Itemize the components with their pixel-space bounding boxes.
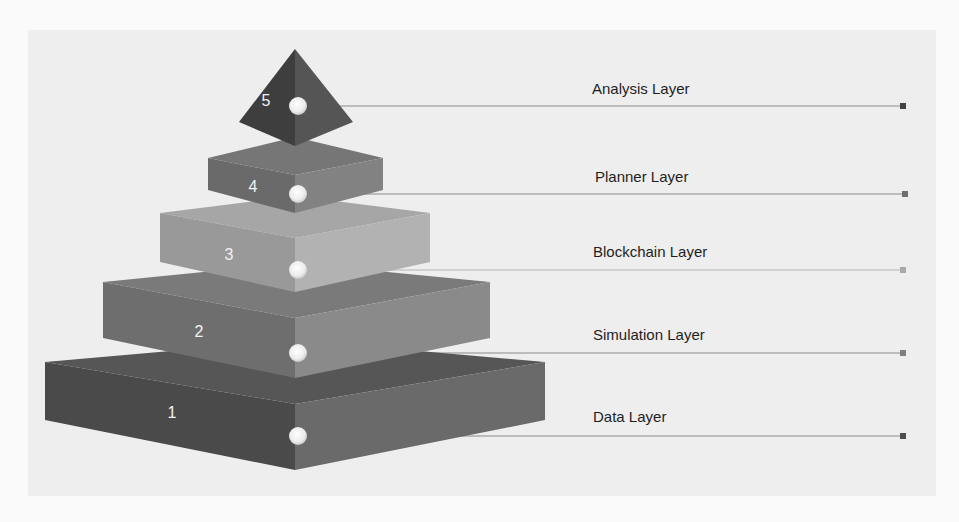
label-blockchain-layer: Blockchain Layer bbox=[593, 243, 707, 260]
marker-simulation bbox=[900, 350, 906, 356]
layer-1-number: 1 bbox=[168, 404, 177, 421]
marker-analysis bbox=[900, 103, 906, 109]
marker-planner bbox=[902, 191, 908, 197]
layer-4-number: 4 bbox=[249, 178, 258, 195]
label-simulation-layer: Simulation Layer bbox=[593, 326, 705, 343]
dot-layer-4 bbox=[289, 185, 307, 203]
label-data-layer: Data Layer bbox=[593, 408, 666, 425]
layer-2-number: 2 bbox=[195, 323, 204, 340]
marker-data bbox=[900, 433, 906, 439]
pyramid-diagram: 5 4 3 2 1 bbox=[0, 0, 959, 522]
connector-markers bbox=[900, 103, 908, 439]
diagram-canvas: 5 4 3 2 1 Analysis Layer Planner Layer B… bbox=[0, 0, 959, 522]
marker-blockchain bbox=[900, 267, 906, 273]
label-analysis-layer: Analysis Layer bbox=[592, 80, 690, 97]
dot-layer-2 bbox=[289, 344, 307, 362]
dot-layer-3 bbox=[289, 261, 307, 279]
dot-layer-5 bbox=[289, 97, 307, 115]
label-planner-layer: Planner Layer bbox=[595, 168, 688, 185]
layer-3-number: 3 bbox=[225, 246, 234, 263]
dot-layer-1 bbox=[289, 427, 307, 445]
layer-5-number: 5 bbox=[262, 92, 271, 109]
